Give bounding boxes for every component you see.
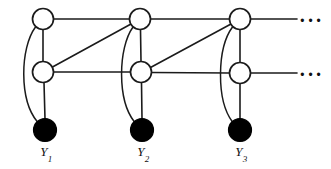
- observed-node-y1: [34, 119, 57, 142]
- observed-node-y3: [229, 119, 252, 142]
- edge-g1-h2-diagonal: [53, 24, 132, 67]
- hidden-node-g3: [230, 63, 251, 84]
- observed-label-y2: Y2: [137, 144, 149, 162]
- observed-label-y2-subscript: 2: [145, 154, 150, 164]
- edges-horizontal-bottom: [54, 72, 298, 73]
- observed-label-y3: Y3: [235, 144, 247, 162]
- observed-label-y3-subscript: 3: [243, 154, 248, 164]
- nodes-observed: [34, 119, 252, 142]
- edge-h2-g2: [141, 30, 142, 62]
- edges-curved-skip: [24, 27, 233, 122]
- edge-g2-g3: [152, 73, 230, 74]
- observed-label-y1-base: Y: [40, 144, 47, 159]
- observed-label-y1: Y1: [40, 144, 52, 162]
- hidden-node-h1: [33, 9, 54, 30]
- edge-g2-h3-diagonal: [151, 24, 232, 68]
- hidden-node-g1: [33, 62, 54, 83]
- observed-label-y3-base: Y: [235, 144, 242, 159]
- continuation-dots-bottom: ···: [299, 64, 324, 84]
- observed-label-y1-subscript: 1: [48, 154, 53, 164]
- hidden-node-g2: [131, 62, 152, 83]
- graphical-model-figure: ··· ··· Y1 Y2 Y3: [0, 0, 331, 169]
- continuation-dots-top: ···: [299, 10, 324, 30]
- observed-node-y2: [131, 119, 154, 142]
- hidden-node-h3: [230, 9, 251, 30]
- edge-g1-y1: [44, 83, 45, 120]
- edges-vertical-observed: [44, 83, 240, 120]
- edge-g2-y2: [142, 83, 143, 120]
- observed-label-y2-base: Y: [137, 144, 144, 159]
- hidden-node-h2: [130, 9, 151, 30]
